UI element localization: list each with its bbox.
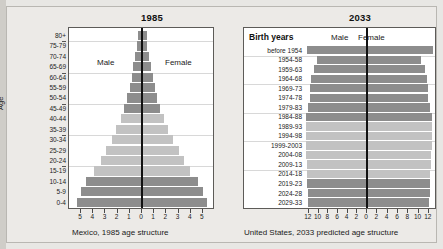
female-bar xyxy=(142,93,157,102)
female-bar xyxy=(142,125,168,134)
male-bar xyxy=(306,141,367,149)
female-bar xyxy=(367,198,429,206)
male-bar xyxy=(306,132,367,140)
male-bar xyxy=(307,160,367,168)
age-label: 10-14 xyxy=(49,178,66,186)
female-bar xyxy=(142,31,147,40)
male-bar xyxy=(306,113,367,121)
x-tick-label: 12 xyxy=(304,213,311,220)
x-tick-label: 8 xyxy=(325,213,329,220)
female-bar xyxy=(142,114,164,123)
female-bar xyxy=(367,56,421,64)
male-bar xyxy=(121,114,142,123)
age-label: 50-54 xyxy=(49,94,66,102)
female-bar xyxy=(142,146,179,155)
female-bar xyxy=(142,187,203,196)
age-tick xyxy=(62,135,66,136)
right-panel-caption: United States, 2033 predicted age struct… xyxy=(244,228,398,237)
left-pyramid-plot: Male Female xyxy=(68,27,214,209)
x-tick-label: 2 xyxy=(115,213,119,220)
female-bar xyxy=(142,156,184,165)
male-bar xyxy=(124,104,142,113)
left-bar-group xyxy=(69,28,213,208)
x-tick-label: 6 xyxy=(395,213,399,220)
right-panel-title: 2033 xyxy=(300,12,420,23)
female-bar xyxy=(367,151,431,159)
x-tick-label: 5 xyxy=(200,213,204,220)
age-label: 55-59 xyxy=(49,84,66,92)
female-bar xyxy=(367,141,432,149)
x-tick-label: 10 xyxy=(314,213,321,220)
left-axis-title: Age xyxy=(0,97,5,110)
x-tick-label: 4 xyxy=(345,213,349,220)
female-bar xyxy=(142,104,160,113)
bar-row xyxy=(244,160,435,168)
male-bar xyxy=(308,198,367,206)
x-tick-label: 4 xyxy=(90,213,94,220)
age-label: 70-74 xyxy=(49,53,66,61)
center-axis-line xyxy=(366,28,367,208)
x-tick-label: 8 xyxy=(405,213,409,220)
bar-row xyxy=(244,198,435,206)
x-tick-label: 6 xyxy=(335,213,339,220)
male-bar xyxy=(112,135,142,144)
age-label: 20-24 xyxy=(49,157,66,165)
bar-row xyxy=(244,103,435,111)
male-bar xyxy=(94,166,142,175)
center-axis-line xyxy=(141,28,142,208)
male-bar xyxy=(317,56,367,64)
female-bar xyxy=(142,198,207,207)
female-bar xyxy=(142,166,190,175)
male-bar xyxy=(310,84,367,92)
age-label: 75-79 xyxy=(49,42,66,50)
bar-row xyxy=(244,113,435,121)
female-bar xyxy=(367,84,428,92)
bar-row xyxy=(244,84,435,92)
left-x-axis: 54321012345 xyxy=(68,209,214,219)
female-bar xyxy=(142,135,173,144)
female-bar xyxy=(142,83,155,92)
age-tick xyxy=(62,73,66,74)
female-bar xyxy=(142,41,147,50)
x-tick-label: 4 xyxy=(188,213,192,220)
male-bar xyxy=(306,122,367,130)
x-tick-label: 3 xyxy=(176,213,180,220)
female-bar xyxy=(367,103,430,111)
x-tick-label: 2 xyxy=(164,213,168,220)
age-label: 15-19 xyxy=(49,167,66,175)
x-tick-label: 2 xyxy=(355,213,359,220)
female-bar xyxy=(367,132,432,140)
age-label: 5-9 xyxy=(57,188,66,196)
right-x-axis: 12108642024681012 xyxy=(243,209,436,219)
female-bar xyxy=(367,189,430,197)
left-age-tick-labels: 80+75-7970-7465-6960-6455-5950-5445-4940… xyxy=(20,28,66,208)
male-bar xyxy=(307,46,367,54)
age-label: 35-39 xyxy=(49,126,66,134)
left-panel-title: 1985 xyxy=(92,12,212,23)
x-tick-label: 2 xyxy=(375,213,379,220)
male-bar xyxy=(311,75,367,83)
right-bar-group xyxy=(244,28,435,208)
female-bar xyxy=(367,179,430,187)
age-label: 40-44 xyxy=(49,115,66,123)
female-bar xyxy=(367,46,433,54)
bar-row xyxy=(244,132,435,140)
female-bar xyxy=(367,122,432,130)
x-tick-label: 4 xyxy=(385,213,389,220)
bar-row xyxy=(244,56,435,64)
age-label: 25-29 xyxy=(49,147,66,155)
female-bar xyxy=(367,170,430,178)
age-tick xyxy=(62,166,66,167)
male-bar xyxy=(130,83,142,92)
age-label: 60-64 xyxy=(49,74,66,82)
x-tick-label: 1 xyxy=(127,213,131,220)
bar-row xyxy=(244,94,435,102)
female-bar xyxy=(367,160,431,168)
right-pyramid-plot: Birth years Male Female before 19541954-… xyxy=(243,27,436,209)
male-bar xyxy=(127,93,142,102)
female-bar xyxy=(367,94,428,102)
age-label: 65-69 xyxy=(49,63,66,71)
bar-row xyxy=(244,75,435,83)
left-panel-caption: Mexico, 1985 age structure xyxy=(72,228,169,237)
female-bar xyxy=(142,62,151,71)
